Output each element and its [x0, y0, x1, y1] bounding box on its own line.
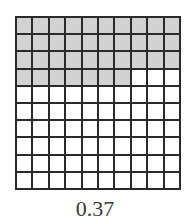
empty-cell [165, 121, 179, 136]
empty-cell [132, 87, 146, 102]
empty-cell [115, 138, 129, 153]
empty-cell [148, 173, 162, 188]
shaded-cell [50, 18, 64, 33]
empty-cell [33, 138, 47, 153]
empty-cell [132, 121, 146, 136]
shaded-cell [17, 18, 31, 33]
shaded-cell [33, 18, 47, 33]
shaded-cell [83, 18, 97, 33]
empty-cell [66, 138, 80, 153]
empty-cell [17, 173, 31, 188]
shaded-cell [66, 70, 80, 85]
empty-cell [165, 173, 179, 188]
empty-cell [165, 70, 179, 85]
empty-cell [148, 156, 162, 171]
empty-cell [50, 173, 64, 188]
shaded-cell [17, 52, 31, 67]
empty-cell [17, 138, 31, 153]
empty-cell [148, 87, 162, 102]
shaded-cell [99, 18, 113, 33]
shaded-cell [50, 70, 64, 85]
empty-cell [50, 104, 64, 119]
empty-cell [165, 138, 179, 153]
empty-cell [33, 104, 47, 119]
empty-cell [132, 173, 146, 188]
shaded-cell [66, 52, 80, 67]
shaded-cell [165, 18, 179, 33]
shaded-cell [66, 18, 80, 33]
shaded-cell [115, 35, 129, 50]
empty-cell [132, 104, 146, 119]
empty-cell [99, 156, 113, 171]
empty-cell [50, 87, 64, 102]
shaded-cell [83, 35, 97, 50]
empty-cell [83, 87, 97, 102]
empty-cell [132, 70, 146, 85]
decimal-label: 0.37 [0, 196, 190, 222]
shaded-cell [50, 35, 64, 50]
empty-cell [148, 121, 162, 136]
empty-cell [66, 121, 80, 136]
empty-cell [148, 70, 162, 85]
empty-cell [50, 138, 64, 153]
empty-cell [33, 87, 47, 102]
empty-cell [83, 104, 97, 119]
empty-cell [99, 138, 113, 153]
empty-cell [132, 138, 146, 153]
shaded-cell [165, 35, 179, 50]
hundred-grid [15, 16, 181, 190]
empty-cell [165, 104, 179, 119]
shaded-cell [83, 70, 97, 85]
empty-cell [17, 87, 31, 102]
empty-cell [99, 87, 113, 102]
empty-cell [115, 104, 129, 119]
empty-cell [66, 173, 80, 188]
shaded-cell [148, 18, 162, 33]
empty-cell [66, 156, 80, 171]
empty-cell [165, 87, 179, 102]
shaded-cell [17, 70, 31, 85]
empty-cell [115, 121, 129, 136]
empty-cell [17, 121, 31, 136]
empty-cell [165, 156, 179, 171]
empty-cell [83, 121, 97, 136]
shaded-cell [50, 52, 64, 67]
empty-cell [33, 121, 47, 136]
empty-cell [99, 173, 113, 188]
empty-cell [115, 156, 129, 171]
shaded-cell [115, 52, 129, 67]
shaded-cell [99, 35, 113, 50]
empty-cell [83, 156, 97, 171]
shaded-cell [33, 35, 47, 50]
empty-cell [33, 156, 47, 171]
shaded-cell [132, 18, 146, 33]
shaded-cell [115, 70, 129, 85]
shaded-cell [148, 35, 162, 50]
shaded-cell [148, 52, 162, 67]
shaded-cell [99, 52, 113, 67]
empty-cell [99, 121, 113, 136]
shaded-cell [33, 52, 47, 67]
empty-cell [115, 173, 129, 188]
shaded-cell [132, 35, 146, 50]
empty-cell [132, 156, 146, 171]
empty-cell [17, 156, 31, 171]
empty-cell [148, 138, 162, 153]
empty-cell [83, 173, 97, 188]
shaded-cell [132, 52, 146, 67]
empty-cell [115, 87, 129, 102]
shaded-cell [33, 70, 47, 85]
empty-cell [50, 156, 64, 171]
shaded-cell [99, 70, 113, 85]
shaded-cell [66, 35, 80, 50]
empty-cell [17, 104, 31, 119]
empty-cell [33, 173, 47, 188]
empty-cell [66, 87, 80, 102]
empty-cell [148, 104, 162, 119]
shaded-cell [83, 52, 97, 67]
shaded-cell [165, 52, 179, 67]
shaded-cell [17, 35, 31, 50]
empty-cell [50, 121, 64, 136]
empty-cell [66, 104, 80, 119]
shaded-cell [115, 18, 129, 33]
